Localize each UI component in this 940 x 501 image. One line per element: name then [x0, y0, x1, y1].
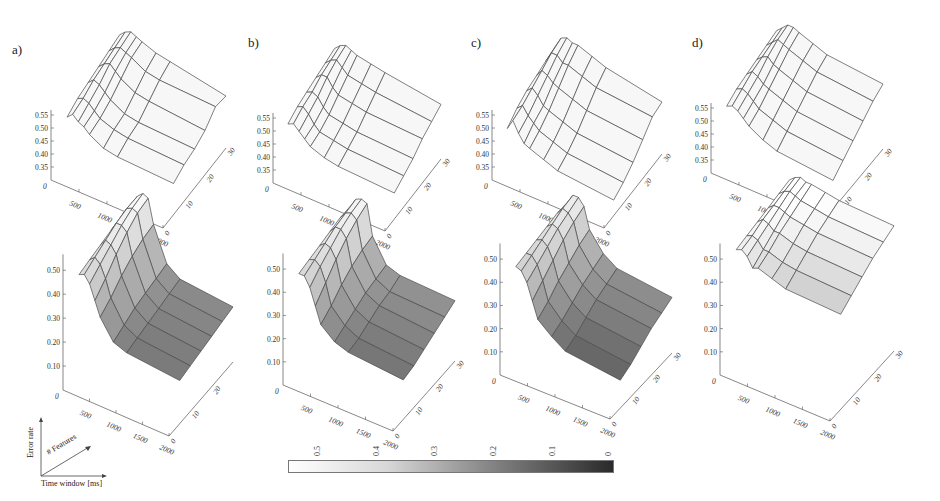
z-tick-label: 0.50 — [267, 265, 280, 274]
z-tick-label: 0.10 — [484, 348, 497, 357]
z-tick-label: 0.50 — [47, 266, 60, 275]
colorbar-tick: 0.5 — [313, 446, 322, 456]
depth-tick-label: 0 — [162, 229, 172, 237]
z-tick-label: 0.50 — [695, 117, 708, 126]
x-tick-label: 1000 — [544, 404, 562, 418]
z-tick-label: 0.45 — [35, 137, 48, 146]
z-tick-label: 0.40 — [704, 278, 717, 287]
origin-label: 0 — [484, 182, 488, 191]
x-tick-label: 500 — [737, 393, 751, 406]
origin-label: 0 — [703, 175, 707, 184]
z-tick-label: 0.20 — [267, 335, 280, 344]
z-tick-label: 0.10 — [704, 348, 717, 357]
colorbar-tick: 0.2 — [489, 446, 498, 456]
z-tick-label: 0.55 — [35, 111, 48, 120]
z-tick-label: 0.40 — [476, 150, 489, 159]
depth-tick-label: 30 — [893, 349, 905, 361]
depth-tick-label: 30 — [440, 157, 452, 169]
x-tick-label: 1000 — [764, 405, 782, 419]
colorbar-gradient — [288, 460, 614, 473]
surface-plot-d-bottom: 0.100.200.300.400.5005001000150020000102… — [704, 177, 905, 441]
legend-x-label: Time window [ms] — [41, 479, 102, 488]
depth-tick-label: 10 — [183, 199, 195, 211]
z-tick-label: 0.50 — [484, 255, 497, 264]
legend-z-label: Error rate — [26, 427, 35, 458]
z-tick-label: 0.35 — [257, 166, 270, 175]
depth-tick-label: 30 — [454, 359, 466, 371]
depth-tick-label: 10 — [623, 201, 635, 213]
x-tick-label: 2000 — [819, 428, 837, 442]
surface-plots: 0.350.400.450.500.5505001000150020000102… — [0, 0, 940, 501]
origin-label: 0 — [55, 392, 59, 401]
z-tick-label: 0.50 — [704, 255, 717, 264]
depth-tick-label: 20 — [204, 172, 216, 184]
depth-axis — [830, 351, 894, 421]
surface-plot-c-bottom: 0.100.200.300.400.5005001000150020000102… — [484, 195, 683, 440]
x-tick-label: 500 — [68, 199, 82, 212]
z-tick-label: 0.45 — [695, 130, 708, 139]
depth-tick-label: 10 — [190, 409, 202, 421]
z-tick-label: 0.30 — [47, 314, 60, 323]
colorbar-tick: 0.4 — [372, 446, 381, 456]
origin-label: 0 — [265, 185, 269, 194]
depth-tick-label: 0 — [609, 420, 619, 428]
z-tick-label: 0.30 — [267, 311, 280, 320]
x-tick-label: 2000 — [158, 443, 176, 457]
z-tick-label: 0.20 — [47, 338, 60, 347]
x-tick-label: 1500 — [355, 426, 373, 440]
z-tick-label: 0.20 — [704, 325, 717, 334]
x-tick-label: 500 — [300, 403, 314, 416]
depth-tick-label: 0 — [829, 422, 839, 430]
z-tick-label: 0.40 — [695, 143, 708, 152]
depth-tick-label: 30 — [661, 152, 673, 164]
depth-tick-label: 0 — [603, 229, 613, 237]
origin-label: 0 — [492, 377, 496, 386]
depth-tick-label: 20 — [862, 171, 874, 183]
depth-tick-label: 0 — [392, 432, 402, 440]
x-tick-label: 1000 — [318, 214, 336, 228]
depth-tick-label: 20 — [642, 176, 654, 188]
z-tick-label: 0.10 — [47, 362, 60, 371]
z-tick-label: 0.35 — [35, 163, 48, 172]
depth-tick-label: 20 — [422, 181, 434, 193]
x-tick-label: 1500 — [572, 415, 590, 429]
z-tick-label: 0.45 — [476, 137, 489, 146]
x-tick-label: 500 — [290, 202, 304, 215]
figure: a) b) c) d) 0.350.400.450.500.5505001000… — [0, 0, 940, 501]
depth-tick-label: 30 — [225, 146, 237, 158]
z-tick-label: 0.20 — [484, 325, 497, 334]
x-tick-label: 500 — [517, 393, 531, 406]
depth-tick-label: 0 — [384, 232, 394, 240]
depth-tick-label: 20 — [211, 384, 223, 396]
z-tick-label: 0.40 — [257, 153, 270, 162]
z-tick-label: 0.30 — [484, 301, 497, 310]
x-tick-label: 1500 — [132, 431, 150, 445]
x-tick-label: 1000 — [327, 415, 345, 429]
x-tick-label: 2000 — [599, 426, 617, 440]
depth-tick-label: 10 — [403, 205, 415, 217]
depth-tick-label: 30 — [882, 147, 894, 159]
z-tick-label: 0.45 — [257, 140, 270, 149]
z-tick-label: 0.10 — [267, 358, 280, 367]
depth-tick-label: 0 — [168, 437, 178, 445]
z-tick-label: 0.50 — [476, 124, 489, 133]
z-tick-label: 0.55 — [476, 111, 489, 120]
z-tick-label: 0.40 — [35, 150, 48, 159]
x-tick-label: 1500 — [792, 416, 810, 430]
colorbar-tick: 0 — [604, 452, 613, 456]
z-tick-label: 0.55 — [695, 104, 708, 113]
z-tick-label: 0.55 — [257, 114, 270, 123]
x-tick-label: 500 — [728, 192, 742, 205]
z-tick-label: 0.40 — [484, 278, 497, 287]
colorbar-tick: 0.1 — [548, 446, 557, 456]
depth-tick-label: 30 — [671, 351, 683, 363]
colorbar-tick: 0.3 — [430, 446, 439, 456]
z-tick-label: 0.35 — [476, 163, 489, 172]
depth-tick-label: 10 — [413, 405, 425, 417]
origin-label: 0 — [275, 387, 279, 396]
axis-legend: Error rate # Features Time window [ms] — [27, 416, 107, 486]
x-tick-label: 500 — [509, 199, 523, 212]
z-tick-label: 0.40 — [47, 290, 60, 299]
origin-label: 0 — [43, 182, 47, 191]
z-tick-label: 0.50 — [257, 127, 270, 136]
